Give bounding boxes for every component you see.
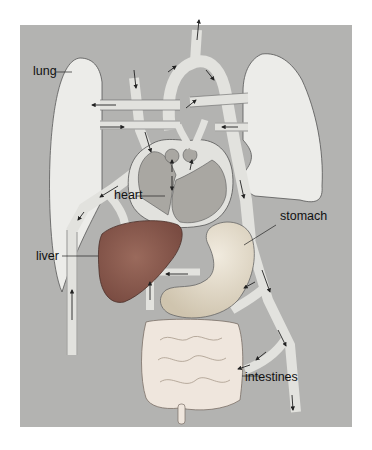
- label-intestines: intestines: [245, 371, 298, 384]
- label-liver: liver: [36, 250, 59, 263]
- label-heart: heart: [114, 189, 143, 202]
- label-lung: lung: [33, 65, 57, 78]
- label-stomach: stomach: [280, 210, 327, 223]
